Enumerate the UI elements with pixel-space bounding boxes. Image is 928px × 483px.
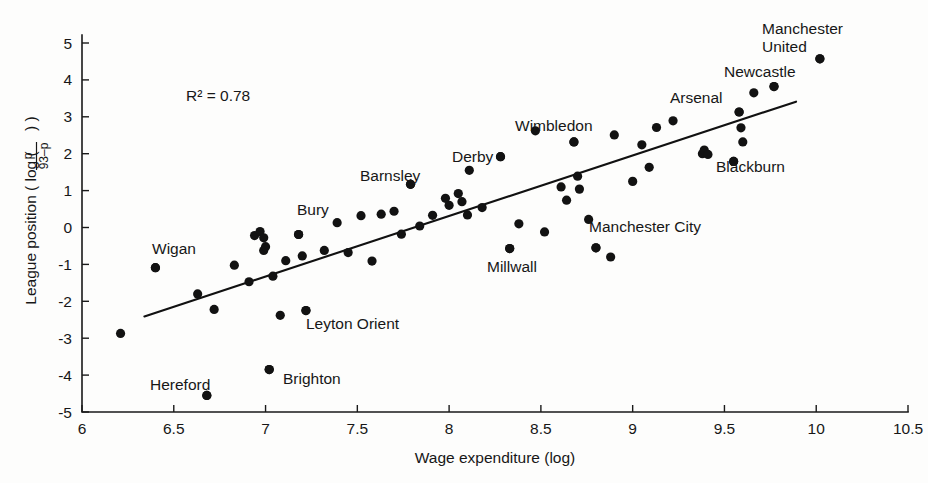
y-tick-label: -5 [58,404,72,421]
y-tick-label: -2 [58,293,72,310]
trendline-segment [144,102,796,317]
data-point [703,150,712,159]
data-point [428,211,437,220]
data-point [562,196,571,205]
data-point [377,210,386,219]
y-axis-title-text: League position ( log ( [22,150,39,304]
data-point [244,277,253,286]
fraction-numerator: p [21,152,35,159]
point-label-line: Wimbledon [515,117,593,134]
x-axis-ticks: 66.577.588.599.51010.5 [78,405,923,437]
x-axis-title: Wage expenditure (log) [415,449,576,466]
data-point-labeled [815,54,824,63]
data-point [445,201,454,210]
data-point [389,207,398,216]
trendline [144,102,796,317]
point-label: Bury [297,201,329,218]
point-labels: ManchesterUnitedNewcastleArsenalBlackbur… [150,20,843,393]
point-label: Wigan [152,240,196,257]
point-label-line: Manchester City [589,218,701,235]
point-label: Wimbledon [515,117,593,134]
x-tick-label: 8 [445,420,454,437]
data-point [457,197,466,206]
point-label: Millwall [487,258,537,275]
data-point [668,116,677,125]
data-point [320,246,329,255]
data-point-labeled [591,243,600,252]
y-axis-title-suffix: ) ) [22,116,39,131]
point-label: Blackburn [716,158,785,175]
point-label-line: Blackburn [716,158,785,175]
x-tick-label: 7.5 [347,420,369,437]
x-tick-label: 8.5 [530,420,552,437]
point-label-line: Brighton [283,370,341,387]
point-label: Brighton [283,370,341,387]
data-point [230,261,239,270]
scatter-chart-figure: 66.577.588.599.51010.5 543210-1-2-3-4-5 … [0,0,928,483]
point-label-line: Barnsley [360,167,421,184]
point-label-line: Leyton Orient [306,315,400,332]
y-tick-label: 0 [63,219,72,236]
point-label-line: Millwall [487,258,537,275]
data-point-labeled [769,82,778,91]
point-label-line: Manchester [762,20,843,37]
x-tick-label: 9.5 [714,420,736,437]
y-tick-label: 2 [63,145,72,162]
data-point [397,230,406,239]
data-point-labeled [505,244,514,253]
data-point [281,256,290,265]
fraction-denominator: 93–p [37,142,51,169]
data-point [463,210,472,219]
data-point-labeled [301,306,310,315]
data-point [540,227,549,236]
point-label-line: Wigan [152,240,196,257]
point-label: ManchesterUnited [762,20,843,55]
data-point [514,219,523,228]
data-point-labeled [496,152,505,161]
data-point-labeled [569,137,578,146]
data-point [333,218,342,227]
plot-canvas: 66.577.588.599.51010.5 543210-1-2-3-4-5 … [0,0,928,483]
point-label: Derby [452,148,494,165]
data-point [298,251,307,260]
data-point [268,272,277,281]
y-tick-label: -4 [58,367,72,384]
data-point [628,177,637,186]
data-point [276,311,285,320]
x-tick-label: 9 [628,420,637,437]
data-point [645,163,654,172]
y-axis-title: League position ( log ( p 93–p ) ) [21,116,51,304]
data-point [606,252,615,261]
data-point [465,166,474,175]
data-point [736,123,745,132]
point-label: Newcastle [724,63,796,80]
data-point [573,172,582,181]
data-point [637,140,646,149]
y-axis-title-prefix: League position ( log ( [22,150,39,304]
point-label-line: Derby [452,148,494,165]
point-label-line: Bury [297,201,329,218]
data-point [610,130,619,139]
y-axis-ticks: 543210-1-2-3-4-5 [58,35,89,421]
point-label: Arsenal [670,89,723,106]
point-label: Manchester City [589,218,701,235]
point-label-line: Newcastle [724,63,796,80]
data-point [261,242,270,251]
data-point-labeled [735,107,744,116]
data-point [454,189,463,198]
y-tick-label: 4 [63,71,72,88]
data-point-labeled [151,263,160,272]
data-point [210,305,219,314]
data-points [116,54,825,400]
data-point [556,182,565,191]
y-tick-label: 3 [63,108,72,125]
y-tick-label: -3 [58,330,72,347]
data-point [478,203,487,212]
point-label: Leyton Orient [306,315,400,332]
point-label-line: Arsenal [670,89,723,106]
y-tick-label: 5 [63,35,72,52]
x-tick-label: 6.5 [163,420,185,437]
r-squared-annotation: R² = 0.78 [186,87,250,104]
data-point [193,289,202,298]
x-tick-label: 10 [808,420,826,437]
